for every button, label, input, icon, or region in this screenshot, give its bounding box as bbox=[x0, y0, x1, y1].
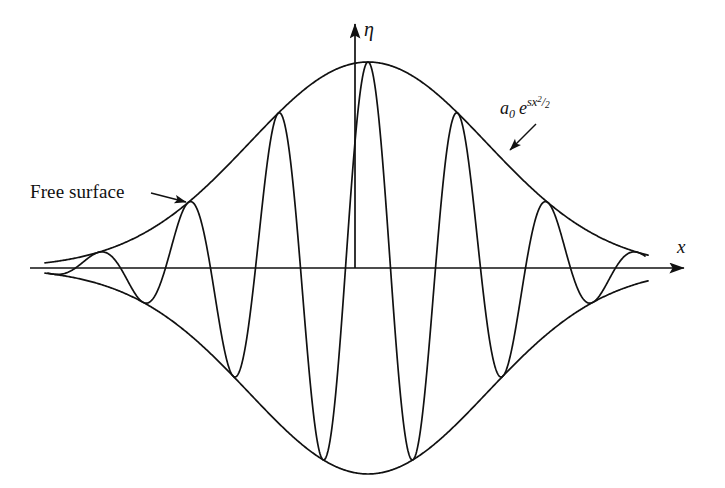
formula-subscript: 0 bbox=[509, 107, 515, 121]
formula-base: a bbox=[500, 98, 509, 118]
upper-envelope-curve bbox=[45, 62, 648, 263]
axes-group bbox=[30, 24, 684, 268]
eta-axis-label: η bbox=[364, 18, 374, 41]
free-surface-wave-curve bbox=[48, 62, 645, 460]
formula-exponent: sx2/2 bbox=[527, 95, 550, 109]
free-surface-annotation: Free surface bbox=[30, 181, 125, 203]
envelope-formula-leader-arrow bbox=[510, 124, 536, 150]
free-surface-leader-arrow bbox=[151, 193, 186, 202]
formula-exp-denominator: 2 bbox=[545, 100, 550, 110]
formula-e: e bbox=[519, 98, 527, 118]
figure-canvas bbox=[0, 0, 725, 488]
wave-packet-figure: Free surface η x a0esx2/2 bbox=[0, 0, 725, 488]
x-axis-label: x bbox=[677, 236, 685, 258]
leader-lines-group bbox=[151, 124, 536, 202]
lower-envelope-curve bbox=[45, 273, 648, 474]
envelope-formula-annotation: a0esx2/2 bbox=[500, 94, 550, 122]
